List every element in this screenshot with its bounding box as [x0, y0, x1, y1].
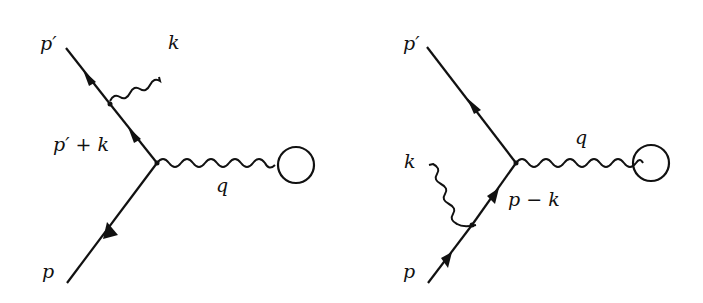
right-photon-k-wiggle: [429, 164, 476, 226]
left-source-circle: [278, 147, 314, 183]
right-fermion-out-arrow-icon: [467, 98, 481, 114]
right-label-q: q: [575, 128, 587, 147]
right-label-k: k: [404, 152, 416, 171]
right-label-internal: p − k: [508, 190, 560, 209]
left-label-internal: p′ + k: [53, 135, 109, 154]
right-photon-q-wiggle: [516, 159, 643, 167]
right-fermion-in-arrow-icon: [441, 252, 452, 268]
right-label-p-in: p: [403, 262, 415, 281]
left-fermion-in-line: [67, 163, 157, 283]
right-source-circle: [633, 145, 669, 181]
left-label-p-in: p: [42, 262, 54, 281]
left-vertex-dot: [155, 161, 160, 166]
left-photon-k-wiggle: [110, 77, 160, 101]
left-label-p-out: p′: [40, 34, 56, 53]
right-vertex-dot: [514, 161, 519, 166]
left-photon-q-wiggle: [157, 159, 275, 168]
left-label-q: q: [216, 176, 228, 195]
left-label-k: k: [168, 33, 180, 52]
left-diagram: [66, 48, 314, 283]
left-emission-vertex-dot: [108, 102, 113, 107]
right-emission-vertex-dot: [470, 223, 475, 228]
right-diagram: [427, 47, 669, 283]
right-label-p-out: p′: [403, 34, 419, 53]
